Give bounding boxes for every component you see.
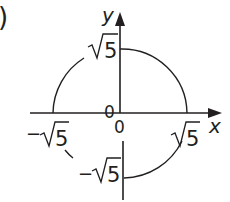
svg-text:5: 5 xyxy=(107,163,120,187)
part-label: ) xyxy=(0,2,8,32)
circle-arc-upper-left xyxy=(53,58,84,113)
svg-text:5: 5 xyxy=(55,127,68,151)
circle-diagram: ) y x 0 0 5 − 5 5 − 5 xyxy=(0,0,230,202)
x-axis-label: x xyxy=(208,114,221,138)
svg-text:5: 5 xyxy=(186,127,199,151)
svg-text:−: − xyxy=(78,163,93,184)
x-positive-root5-label: 5 xyxy=(171,122,200,151)
origin-label-below: 0 xyxy=(114,117,125,137)
x-negative-root5-label: − 5 xyxy=(26,122,69,151)
circle-arc-lower-right xyxy=(124,141,182,178)
circle-arc-lower-left-fragment xyxy=(65,150,73,158)
circle-arc-upper-right xyxy=(120,49,187,113)
y-negative-root5-label: − 5 xyxy=(78,158,121,187)
svg-text:−: − xyxy=(26,123,41,144)
y-axis-arrow-icon xyxy=(115,12,125,26)
svg-text:5: 5 xyxy=(104,39,117,63)
y-positive-root5-label: 5 xyxy=(88,34,118,63)
y-axis-label: y xyxy=(101,3,115,27)
